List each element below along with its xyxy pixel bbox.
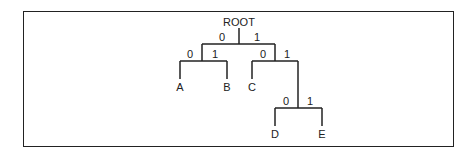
edge-label-n3-right: 1 xyxy=(307,95,313,107)
tree-diagram: ROOT 0 1 0 1 0 1 0 1 A B C D E xyxy=(0,0,476,157)
edge-label-root-right: 1 xyxy=(254,31,260,43)
leaf-d: D xyxy=(271,128,279,140)
leaf-e: E xyxy=(318,128,325,140)
root-label: ROOT xyxy=(223,16,255,28)
edge-label-n2-right: 1 xyxy=(284,48,290,60)
edge-label-root-left: 0 xyxy=(219,31,225,43)
tree-edges xyxy=(180,28,322,126)
edge-label-n2-left: 0 xyxy=(260,48,266,60)
leaf-c: C xyxy=(248,81,256,93)
edge-label-n1-left: 0 xyxy=(187,48,193,60)
edge-label-n3-left: 0 xyxy=(283,95,289,107)
leaf-b: B xyxy=(223,81,230,93)
edge-label-n1-right: 1 xyxy=(212,48,218,60)
leaf-a: A xyxy=(176,81,184,93)
